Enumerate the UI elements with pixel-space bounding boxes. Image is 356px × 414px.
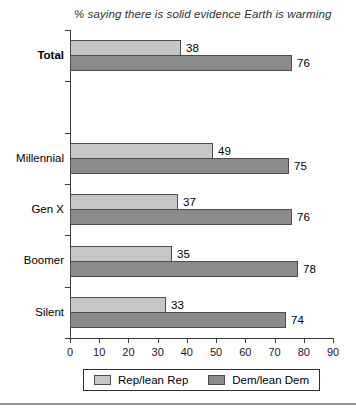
- value-label-rep: 33: [171, 298, 184, 313]
- y-tick: [65, 133, 70, 134]
- x-tick: [187, 338, 188, 343]
- bar-dem: [70, 158, 289, 174]
- x-tick: [304, 338, 305, 343]
- x-tick-label: 70: [263, 346, 287, 358]
- legend: Rep/lean Rep Dem/lean Dem: [70, 369, 333, 391]
- bar-dem: [70, 261, 298, 277]
- x-tick-label: 20: [116, 346, 140, 358]
- legend-swatch-rep-icon: [94, 375, 111, 385]
- legend-swatch-dem-icon: [208, 375, 225, 385]
- legend-label-rep: Rep/lean Rep: [118, 374, 188, 386]
- bar-rep: [70, 194, 178, 210]
- value-label-rep: 38: [186, 41, 199, 56]
- x-tick-label: 10: [87, 346, 111, 358]
- x-tick-label: 40: [175, 346, 199, 358]
- bar-rep: [70, 246, 172, 262]
- y-tick: [65, 184, 70, 185]
- value-label-rep: 49: [218, 144, 231, 159]
- chart-title: % saying there is solid evidence Earth i…: [74, 8, 346, 20]
- value-label-dem: 75: [294, 159, 307, 174]
- y-axis: [70, 30, 71, 339]
- category-label: Silent: [0, 287, 64, 338]
- y-tick: [65, 30, 70, 31]
- category-label: Total: [0, 30, 64, 81]
- x-tick: [333, 338, 334, 343]
- bar-dem: [70, 55, 292, 71]
- y-tick: [65, 235, 70, 236]
- category-label: Millennial: [0, 133, 64, 184]
- x-axis: [70, 338, 334, 339]
- x-tick: [128, 338, 129, 343]
- x-tick-label: 60: [233, 346, 257, 358]
- x-tick: [275, 338, 276, 343]
- x-tick-label: 0: [58, 346, 82, 358]
- x-tick-label: 50: [204, 346, 228, 358]
- x-tick-label: 90: [321, 346, 345, 358]
- value-label-dem: 78: [303, 262, 316, 277]
- bottom-divider: [0, 403, 356, 405]
- x-tick: [216, 338, 217, 343]
- x-tick: [245, 338, 246, 343]
- x-tick: [158, 338, 159, 343]
- bar-rep: [70, 40, 181, 56]
- bar-rep: [70, 297, 166, 313]
- value-label-rep: 37: [183, 195, 196, 210]
- bar-rep: [70, 143, 213, 159]
- bar-dem: [70, 209, 292, 225]
- y-tick: [65, 81, 70, 82]
- value-label-dem: 74: [291, 313, 304, 328]
- x-tick-label: 80: [292, 346, 316, 358]
- chart-panel: % saying there is solid evidence Earth i…: [0, 0, 356, 414]
- legend-label-dem: Dem/lean Dem: [232, 374, 309, 386]
- x-tick-label: 30: [146, 346, 170, 358]
- y-tick: [65, 287, 70, 288]
- value-label-rep: 35: [177, 247, 190, 262]
- x-tick: [70, 338, 71, 343]
- legend-box: Rep/lean Rep Dem/lean Dem: [83, 369, 320, 391]
- bar-dem: [70, 312, 286, 328]
- category-label: Boomer: [0, 235, 64, 286]
- value-label-dem: 76: [297, 210, 310, 225]
- value-label-dem: 76: [297, 56, 310, 71]
- x-tick: [99, 338, 100, 343]
- category-label: Gen X: [0, 184, 64, 235]
